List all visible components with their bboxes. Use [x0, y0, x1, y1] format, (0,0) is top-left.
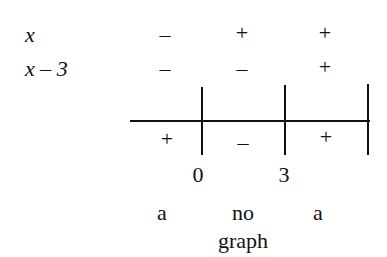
divider-end [367, 84, 369, 155]
divider-at-0 [201, 87, 203, 155]
row-label-x-minus-3: x – 3 [25, 58, 68, 80]
critical-point-0: 0 [193, 164, 204, 186]
note-interval-3: a [313, 202, 323, 224]
sign-x-interval-3: + [319, 22, 331, 44]
sign-x-interval-1: – [160, 24, 171, 46]
note-interval-2: no [232, 202, 254, 224]
sign-x-minus-3-interval-2: – [237, 58, 248, 80]
number-line [130, 120, 370, 122]
row-label-x: x [25, 24, 35, 46]
note-interval-1: a [157, 202, 167, 224]
product-sign-interval-1: + [161, 128, 173, 150]
product-sign-interval-3: + [320, 126, 332, 148]
product-sign-interval-2: – [238, 132, 249, 154]
sign-x-minus-3-interval-3: + [319, 56, 331, 78]
note-interval-2-line2: graph [218, 230, 268, 252]
critical-point-3: 3 [279, 164, 290, 186]
sign-x-interval-2: + [236, 22, 248, 44]
divider-at-3 [284, 85, 286, 155]
sign-x-minus-3-interval-1: – [160, 58, 171, 80]
